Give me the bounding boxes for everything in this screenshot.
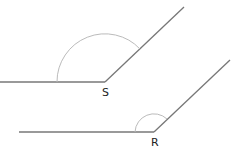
- angle-s: S: [0, 7, 184, 99]
- angles-diagram: S R: [0, 0, 235, 155]
- angle-r: R: [19, 60, 230, 149]
- angle-r-label: R: [151, 136, 159, 149]
- angle-s-ray: [105, 7, 184, 82]
- angle-r-ray: [154, 60, 230, 132]
- angle-s-label: S: [102, 86, 109, 99]
- angle-r-arc: [135, 114, 167, 132]
- angle-s-arc: [57, 34, 140, 82]
